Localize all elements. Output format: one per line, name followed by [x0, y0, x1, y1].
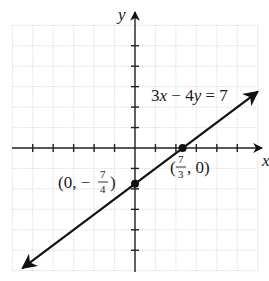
axes — [12, 12, 262, 272]
coordinate-plane: y x 3x − 4y = 7 (0, − 7 4 ) ( 7 3 , 0) — [0, 0, 269, 281]
y-intercept-label: (0, − 7 4 ) — [58, 168, 116, 195]
svg-text:7: 7 — [100, 168, 106, 180]
svg-text:(: ( — [170, 158, 176, 177]
svg-text:4: 4 — [100, 183, 106, 195]
y-intercept-point — [131, 180, 139, 188]
x-axis-label: x — [261, 151, 269, 170]
svg-text:): ) — [110, 173, 116, 192]
svg-text:7: 7 — [178, 153, 184, 165]
y-axis-label: y — [116, 5, 126, 24]
x-intercept-label: ( 7 3 , 0) — [170, 153, 210, 180]
equation-label: 3x − 4y = 7 — [151, 86, 228, 105]
svg-text:, 0): , 0) — [187, 158, 210, 177]
svg-text:3: 3 — [178, 168, 184, 180]
x-intercept-point — [179, 144, 187, 152]
svg-text:(0, −: (0, − — [58, 173, 90, 192]
